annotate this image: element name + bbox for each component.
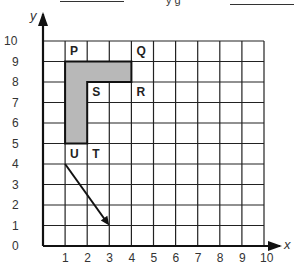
point-label-p: P bbox=[70, 44, 78, 58]
x-tick-label: 9 bbox=[239, 251, 246, 265]
point-label-q: Q bbox=[136, 44, 145, 58]
y-tick-label: 10 bbox=[4, 34, 18, 48]
y-tick-label: 8 bbox=[12, 75, 19, 89]
tick-labels: 01234567891012345678910 bbox=[4, 34, 274, 265]
point-label-t: T bbox=[92, 147, 100, 161]
x-tick-label: 8 bbox=[217, 251, 224, 265]
coordinate-grid: 01234567891012345678910 PQSRUT x y bbox=[0, 0, 303, 271]
y-tick-label: 1 bbox=[12, 219, 19, 233]
y-tick-label: 0 bbox=[12, 239, 19, 253]
y-tick-label: 6 bbox=[12, 116, 19, 130]
y-tick-label: 4 bbox=[12, 157, 19, 171]
y-tick-label: 9 bbox=[12, 55, 19, 69]
x-tick-label: 5 bbox=[151, 251, 158, 265]
x-tick-label: 1 bbox=[62, 251, 69, 265]
y-tick-label: 5 bbox=[12, 137, 19, 151]
point-label-u: U bbox=[70, 147, 79, 161]
x-tick-label: 7 bbox=[195, 251, 202, 265]
x-tick-label: 6 bbox=[173, 251, 180, 265]
x-axis-label: x bbox=[283, 237, 291, 252]
point-label-r: R bbox=[136, 85, 145, 99]
x-tick-label: 3 bbox=[106, 251, 113, 265]
x-tick-label: 4 bbox=[128, 251, 135, 265]
x-tick-label: 2 bbox=[84, 251, 91, 265]
y-axis-label: y bbox=[29, 8, 38, 23]
y-tick-label: 7 bbox=[12, 96, 19, 110]
point-label-s: S bbox=[92, 85, 100, 99]
y-tick-label: 2 bbox=[12, 198, 19, 212]
x-tick-label: 10 bbox=[260, 251, 274, 265]
y-tick-label: 3 bbox=[12, 178, 19, 192]
